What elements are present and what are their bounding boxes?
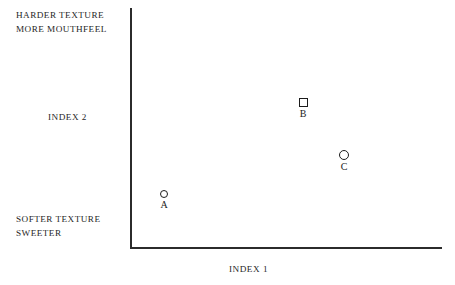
data-point-b: B: [283, 98, 323, 119]
top-left-annotation: HARDER TEXTURE MORE MOUTHFEEL: [16, 8, 107, 36]
annotation-harder-texture: HARDER TEXTURE: [16, 8, 107, 22]
y-axis-title: INDEX 2: [48, 112, 87, 122]
x-axis-title: INDEX 1: [0, 264, 455, 274]
annotation-softer-texture: SOFTER TEXTURE: [16, 212, 100, 226]
data-point-label: C: [324, 161, 364, 172]
open-circle-marker-icon: [160, 190, 168, 198]
x-axis-line: [130, 247, 442, 249]
data-point-c: C: [324, 150, 364, 172]
data-point-a: A: [144, 190, 184, 210]
open-square-marker-icon: [299, 98, 308, 107]
annotation-more-mouthfeel: MORE MOUTHFEEL: [16, 22, 107, 36]
data-point-label: B: [283, 108, 323, 119]
y-axis-line: [130, 8, 132, 249]
open-circle-marker-icon: [339, 150, 349, 160]
annotation-sweeter: SWEETER: [16, 226, 100, 240]
scatter-plot-figure: HARDER TEXTURE MORE MOUTHFEEL SOFTER TEX…: [0, 0, 455, 285]
data-point-label: A: [144, 199, 184, 210]
bottom-left-annotation: SOFTER TEXTURE SWEETER: [16, 212, 100, 240]
